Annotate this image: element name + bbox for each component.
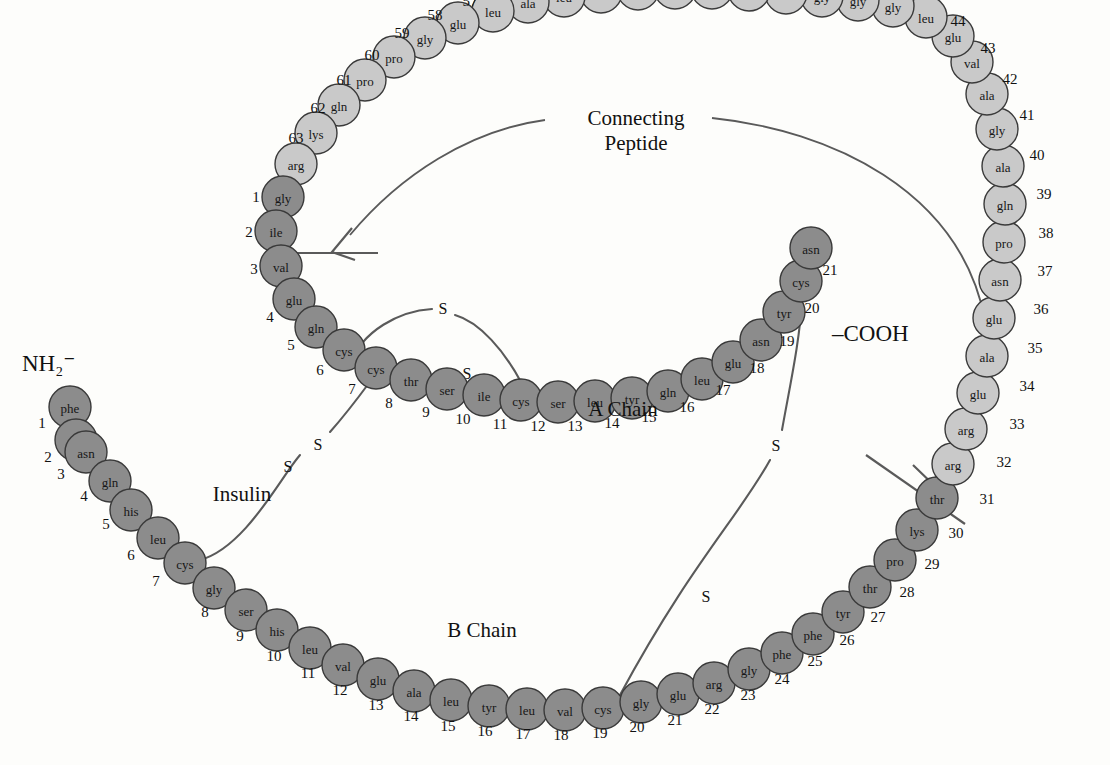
residue-name: ala [995, 160, 1010, 175]
residue-name: ala [979, 88, 994, 103]
residue-number: 20 [805, 300, 820, 316]
cp-arrow-left [296, 228, 378, 260]
residue-b-15-leu[interactable]: leu15 [430, 679, 472, 734]
residue-name: tyr [482, 700, 497, 715]
residue-c-peptide-50-gly[interactable]: gly50 [691, 0, 737, 9]
residue-name: cys [792, 275, 809, 290]
residue-name: gly [741, 663, 758, 678]
residue-c-peptide-53-ala[interactable]: ala53 [580, 0, 626, 13]
residue-number: 40 [1030, 147, 1045, 163]
residue-name: val [964, 56, 980, 71]
residue-name: leu [556, 0, 572, 5]
residue-b-12-val[interactable]: val12 [322, 644, 364, 698]
residue-name: glu [725, 356, 742, 371]
chain-b: phe1val2asn3gln4his5leu6cys7gly8ser9his1… [38, 386, 963, 743]
residue-name: his [123, 504, 138, 519]
c-terminus-label: –COOH [831, 321, 909, 346]
residue-name: phe [61, 401, 80, 416]
residue-name: glu [986, 312, 1003, 327]
ss-label-a20: S [772, 437, 781, 454]
residue-c-peptide-49-gly[interactable]: gly49 [728, 0, 774, 11]
residue-number: 31 [980, 491, 995, 507]
residue-name: ala [406, 685, 421, 700]
residue-name: arg [958, 423, 975, 438]
chain-c-peptide: arg31arg32glu33ala34glu35asn36pro37gln38… [275, 0, 1054, 507]
residue-name: leu [519, 703, 535, 718]
residue-name: arg [945, 458, 962, 473]
residue-name: cys [335, 344, 352, 359]
disulfide-bond-a7-b7: S S [200, 383, 369, 560]
residue-circle[interactable] [728, 0, 770, 11]
residue-number: 30 [949, 525, 964, 541]
residue-b-13-glu[interactable]: glu13 [357, 658, 399, 713]
residue-name: lys [308, 127, 323, 142]
cp-arc-left [350, 120, 545, 235]
residue-number: 62 [311, 100, 326, 116]
residue-number: 10 [267, 648, 282, 664]
residue-name: tyr [836, 606, 851, 621]
residue-c-peptide-51-leu[interactable]: leu51 [654, 0, 700, 9]
residue-name: gly [814, 0, 831, 5]
residue-circle[interactable] [691, 0, 733, 9]
residue-name: arg [706, 677, 723, 692]
residue-name: ser [439, 383, 455, 398]
residue-number: 27 [871, 609, 887, 625]
residue-circle[interactable] [654, 0, 696, 9]
residue-number: 23 [741, 687, 756, 703]
residue-number: 10 [456, 411, 471, 427]
residue-b-18-val[interactable]: val18 [544, 689, 586, 743]
residue-number: 63 [289, 130, 304, 146]
residue-number: 12 [333, 682, 348, 698]
residue-number: 26 [840, 632, 856, 648]
residue-number: 24 [775, 671, 791, 687]
residue-number: 22 [705, 701, 720, 717]
ss-label-b19: S [702, 588, 711, 605]
residue-a-2-ile[interactable]: ile2 [245, 210, 297, 252]
residue-number: 17 [516, 726, 532, 742]
residue-b-14-ala[interactable]: ala14 [393, 670, 435, 724]
residue-number: 9 [422, 404, 430, 420]
residue-name: gly [275, 191, 292, 206]
residue-number: 28 [900, 584, 915, 600]
residue-number: 2 [245, 224, 253, 240]
residue-c-peptide-52-gln[interactable]: gln52 [617, 0, 663, 10]
residue-number: 13 [369, 697, 384, 713]
residue-circle[interactable] [765, 0, 807, 14]
residue-name: asn [991, 274, 1009, 289]
connecting-peptide-label-line2: Peptide [605, 131, 668, 155]
residue-number: 60 [365, 47, 380, 63]
residue-c-peptide-54-leu[interactable]: leu54 [543, 0, 588, 17]
residue-name: asn [802, 242, 820, 257]
residue-name: thr [863, 581, 878, 596]
ss-label-a6: S [439, 300, 448, 317]
residue-number: 17 [716, 382, 732, 398]
residue-number: 44 [951, 13, 967, 29]
residue-b-19-cys[interactable]: cys19 [582, 687, 624, 741]
residue-number: 42 [1003, 71, 1018, 87]
residue-name: glu [286, 293, 303, 308]
residue-name: leu [150, 532, 166, 547]
residue-b-17-leu[interactable]: leu17 [506, 688, 548, 742]
residue-name: phe [804, 628, 823, 643]
residue-number: 37 [1038, 263, 1054, 279]
chain-a: gly1ile2val3glu4gln5cys6cys7thr8ser9ile1… [245, 176, 837, 434]
residue-number: 59 [395, 25, 410, 41]
residue-name: gln [308, 321, 325, 336]
residue-name: pro [995, 236, 1012, 251]
residue-number: 3 [250, 261, 258, 277]
residue-name: cys [594, 702, 611, 717]
residue-b-16-tyr[interactable]: tyr16 [468, 685, 510, 739]
residue-b-20-gly[interactable]: gly20 [620, 681, 662, 735]
residue-name: glu [450, 17, 467, 32]
residue-circle[interactable] [580, 0, 622, 13]
residue-number: 34 [1020, 378, 1036, 394]
residue-number: 19 [780, 333, 795, 349]
residue-name: gly [633, 696, 650, 711]
residue-name: ser [550, 396, 566, 411]
residue-number: 25 [808, 653, 823, 669]
ss-label-a7: S [314, 436, 323, 453]
residue-circle[interactable] [617, 0, 659, 10]
residue-number: 12 [531, 418, 546, 434]
residue-number: 38 [1039, 225, 1054, 241]
residue-name: gly [206, 582, 223, 597]
